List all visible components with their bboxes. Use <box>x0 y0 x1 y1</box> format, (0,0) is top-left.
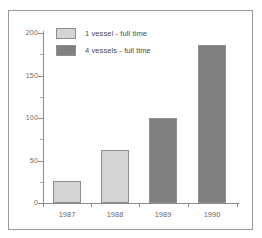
y-axis-label-100: 100 <box>26 114 38 122</box>
x-tick-2 <box>139 203 140 207</box>
x-tick-end <box>237 203 238 207</box>
y-axis-label-150: 150 <box>26 72 38 80</box>
x-axis-label-1990: 1990 <box>192 210 232 219</box>
y-tick-minor-125 <box>40 97 44 98</box>
x-tick-3 <box>188 203 189 207</box>
y-tick-100 <box>38 118 44 119</box>
chart-figure: 200 150 100 50 0 1987 1988 1989 1990 1 v… <box>0 0 262 238</box>
y-tick-200 <box>38 33 44 34</box>
bar-1987 <box>53 181 81 203</box>
x-axis-label-1989: 1989 <box>143 210 183 219</box>
bar-1990 <box>198 45 226 203</box>
x-tick-start <box>43 203 44 207</box>
legend-swatch-icon-1-vessel <box>56 28 76 39</box>
y-axis-label-0: 0 <box>34 199 38 207</box>
x-axis-label-1988: 1988 <box>95 210 135 219</box>
legend-item-1-vessel: 1 vessel - full time <box>56 27 151 40</box>
chart-legend: 1 vessel - full time 4 vessels - full ti… <box>56 27 151 61</box>
bar-1989 <box>149 118 177 203</box>
y-tick-50 <box>38 161 44 162</box>
y-tick-minor-75 <box>40 139 44 140</box>
x-axis-label-1987: 1987 <box>47 210 87 219</box>
bar-1988 <box>101 150 129 203</box>
y-tick-minor-175 <box>40 54 44 55</box>
y-tick-150 <box>38 76 44 77</box>
y-axis-label-200: 200 <box>26 29 38 37</box>
x-axis-line <box>43 203 239 204</box>
x-tick-1 <box>91 203 92 207</box>
y-axis-label-50: 50 <box>30 157 38 165</box>
y-tick-minor-25 <box>40 182 44 183</box>
legend-swatch-icon-4-vessels <box>56 45 76 56</box>
legend-label-4-vessels: 4 vessels - full time <box>85 46 151 55</box>
legend-item-4-vessels: 4 vessels - full time <box>56 44 151 57</box>
legend-label-1-vessel: 1 vessel - full time <box>85 29 147 38</box>
